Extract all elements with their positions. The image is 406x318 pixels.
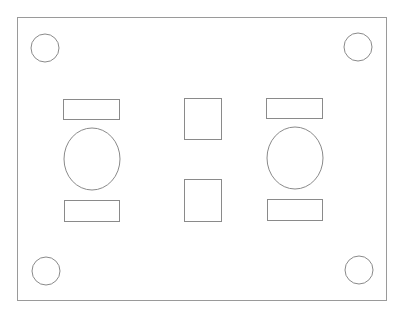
right-bottom-slot (268, 200, 323, 221)
right-oval-cutout (267, 127, 323, 189)
mounting-hole-top-right (344, 33, 372, 61)
mounting-hole-bottom-left (32, 257, 60, 285)
left-top-slot (64, 100, 120, 120)
panel-drawing (0, 0, 406, 318)
center-top-square-cutout (185, 99, 222, 140)
mounting-hole-bottom-right (345, 256, 373, 284)
center-bottom-square-cutout (185, 180, 222, 222)
outer-panel (18, 18, 387, 301)
right-top-slot (267, 99, 323, 119)
left-bottom-slot (65, 201, 120, 222)
mounting-hole-top-left (31, 34, 59, 62)
left-oval-cutout (64, 128, 120, 190)
